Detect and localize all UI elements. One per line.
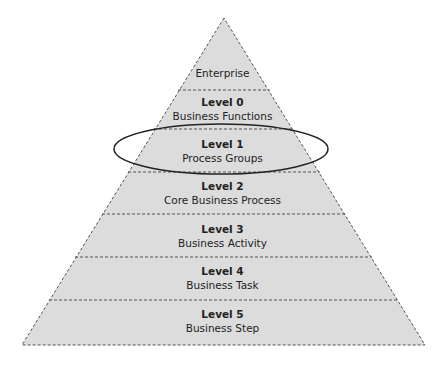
level-subtitle: Business Functions	[0, 109, 445, 123]
level-1: Level 1 Process Groups	[0, 137, 445, 165]
level-subtitle: Business Step	[0, 321, 445, 335]
level-title: Level 5	[0, 307, 445, 321]
level-subtitle: Business Task	[0, 278, 445, 292]
level-0: Level 0 Business Functions	[0, 95, 445, 123]
level-enterprise: Enterprise	[0, 66, 445, 80]
level-subtitle: Core Business Process	[0, 193, 445, 207]
level-title: Level 2	[0, 179, 445, 193]
level-subtitle: Process Groups	[0, 151, 445, 165]
level-3: Level 3 Business Activity	[0, 222, 445, 250]
level-title: Level 1	[0, 137, 445, 151]
level-title: Level 3	[0, 222, 445, 236]
level-5: Level 5 Business Step	[0, 307, 445, 335]
level-title: Level 0	[0, 95, 445, 109]
enterprise-label: Enterprise	[0, 66, 445, 80]
level-title: Level 4	[0, 264, 445, 278]
level-2: Level 2 Core Business Process	[0, 179, 445, 207]
level-subtitle: Business Activity	[0, 236, 445, 250]
level-4: Level 4 Business Task	[0, 264, 445, 292]
